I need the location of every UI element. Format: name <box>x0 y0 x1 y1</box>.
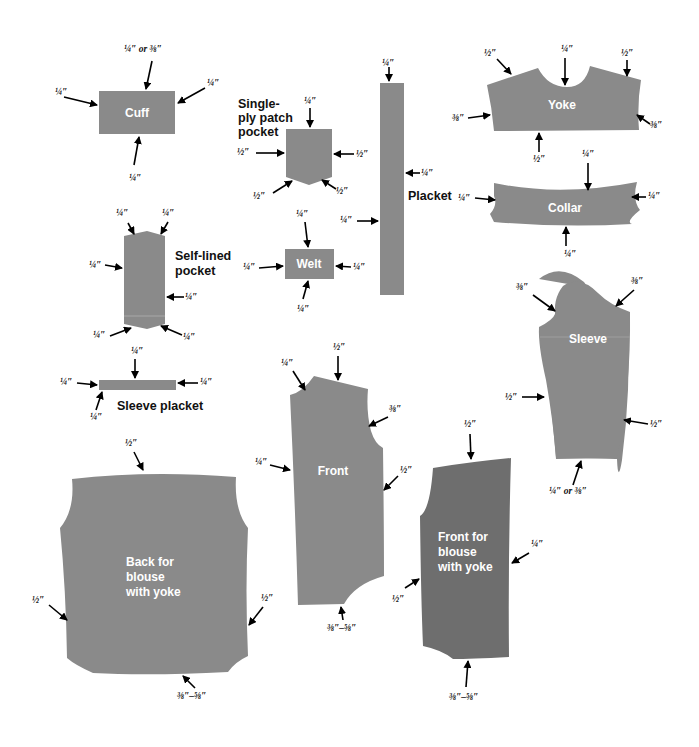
back-yoke-left-allowance: ½″ <box>32 595 44 605</box>
patch-pocket-title-2: ply patch <box>238 111 293 125</box>
collar-bottom-allowance: ¼″ <box>564 249 576 259</box>
self-lined-pocket-bottom-left-allowance: ¼″ <box>93 330 105 340</box>
front-label: Front <box>318 464 349 478</box>
sleeve-left-allowance: ½″ <box>505 392 517 402</box>
patch-pocket-title-3: pocket <box>238 125 279 139</box>
cuff-right-allowance: ¼″ <box>207 78 219 88</box>
yoke-left-allowance: ⅜″ <box>452 113 464 123</box>
welt-top-allowance: ¼″ <box>296 209 308 219</box>
sleeve-label: Sleeve <box>569 332 607 346</box>
arrow <box>405 579 419 588</box>
collar-right-allowance: ¼″ <box>648 191 660 201</box>
yoke-top-left-allowance: ½″ <box>484 48 496 58</box>
arrow <box>637 115 650 124</box>
patch-pocket-right-allowance: ½″ <box>356 149 368 159</box>
arrow <box>110 328 131 336</box>
placket-label: Placket <box>408 189 453 203</box>
sleeve-placket-piece: Sleeve placket ¼″ ¼″ ¼″ ¼″ <box>60 346 212 422</box>
arrow <box>305 222 308 247</box>
self-lined-pocket-top-left-allowance: ¼″ <box>116 208 128 218</box>
arrow <box>134 452 143 470</box>
arrow <box>77 383 97 385</box>
arrow <box>128 223 134 234</box>
arrow <box>573 461 581 485</box>
arrow <box>475 198 495 200</box>
front-yoke-piece: Front for blouse with yoke ½″ ¼″ ½″ ⅜″–⅝… <box>392 419 543 702</box>
front-top-allowance: ½″ <box>333 342 345 352</box>
self-lined-pocket-title-1: Self-lined <box>175 249 231 263</box>
arrow <box>259 266 283 268</box>
patch-pocket-bottom-right-allowance: ½″ <box>336 186 348 196</box>
front-yoke-label-3: with yoke <box>437 560 493 574</box>
arrow <box>470 434 471 459</box>
placket-shape <box>380 83 404 295</box>
arrow <box>466 661 468 687</box>
seam-allowance-diagram: Cuff ¼″ or ⅜″ ¼″ ¼″ ¼″ Single- ply patch… <box>0 0 699 747</box>
patch-pocket-piece: Single- ply patch pocket ¼″ ½″ ½″ ½″ ½″ <box>237 96 368 201</box>
arrow <box>303 281 308 299</box>
yoke-right-allowance: ⅜″ <box>650 120 662 130</box>
sleeve-placket-top-allowance: ¼″ <box>131 346 143 356</box>
self-lined-pocket-shape <box>124 231 165 329</box>
back-yoke-label-1: Back for <box>126 555 174 569</box>
back-yoke-top-allowance: ½″ <box>125 438 137 448</box>
sleeve-top-left-allowance: ⅜″ <box>516 282 528 292</box>
arrow <box>341 607 343 620</box>
collar-piece: Collar ¼″ ¼″ ¼″ ¼″ <box>458 149 660 259</box>
placket-top-allowance: ¼″ <box>382 58 394 68</box>
self-lined-pocket-left-allowance: ¼″ <box>89 260 101 270</box>
front-yoke-top-allowance: ½″ <box>464 419 476 429</box>
cuff-label: Cuff <box>125 106 150 120</box>
front-shape <box>290 376 384 605</box>
patch-pocket-bottom-left-allowance: ½″ <box>253 191 265 201</box>
welt-label: Welt <box>296 257 321 271</box>
sleeve-piece: Sleeve ⅜″ ⅜″ ½″ ½″ ¼″ or ⅜″ <box>505 271 662 496</box>
front-yoke-label-1: Front for <box>438 530 488 544</box>
yoke-label: Yoke <box>548 98 576 112</box>
arrow <box>270 465 290 470</box>
sleeve-right-allowance: ½″ <box>650 419 662 429</box>
back-yoke-label-2: blouse <box>126 570 165 584</box>
back-yoke-right-allowance: ½″ <box>261 593 273 603</box>
arrow <box>468 115 490 118</box>
patch-pocket-shape <box>286 129 332 185</box>
sleeve-bottom-allowance: ¼″ or ⅜″ <box>549 486 587 496</box>
sleeve-placket-shape <box>99 380 176 390</box>
arrow <box>624 420 648 424</box>
welt-bottom-allowance: ¼″ <box>297 304 309 314</box>
arrow <box>161 222 168 234</box>
placket-right-allowance: ¼″ <box>421 168 433 178</box>
collar-label: Collar <box>548 201 582 215</box>
patch-pocket-left-allowance: ½″ <box>237 147 249 157</box>
cuff-left-allowance: ¼″ <box>55 87 67 97</box>
arrow <box>497 59 511 74</box>
yoke-top-right-allowance: ½″ <box>621 48 633 58</box>
arrow <box>134 137 139 165</box>
arrow <box>533 295 555 311</box>
cuff-bottom-allowance: ¼″ <box>129 173 141 183</box>
back-yoke-bottom-allowance: ⅜″–⅝″ <box>177 691 207 701</box>
arrow <box>146 61 152 89</box>
arrow <box>369 417 388 426</box>
front-bottom-allowance: ⅜″–⅝″ <box>327 623 357 633</box>
arrow <box>293 371 305 390</box>
self-lined-pocket-top-right-allowance: ¼″ <box>162 208 174 218</box>
sleeve-placket-right-allowance: ¼″ <box>200 377 212 387</box>
front-right-allowance: ½″ <box>400 465 412 475</box>
arrow <box>105 265 122 268</box>
sleeve-placket-bottom-allowance: ¼″ <box>90 412 102 422</box>
self-lined-pocket-right-allowance: ¼″ <box>185 292 197 302</box>
arrow <box>336 266 351 267</box>
front-left-allowance: ¼″ <box>255 457 267 467</box>
yoke-bottom-allowance: ½″ <box>533 154 545 164</box>
sleeve-top-right-allowance: ⅜″ <box>631 276 643 286</box>
back-yoke-piece: Back for blouse with yoke ½″ ½″ ½″ ⅜″–⅝″ <box>32 438 273 701</box>
self-lined-pocket-bottom-right-allowance: ¼″ <box>183 332 195 342</box>
placket-piece: Placket ¼″ ¼″ ¼″ <box>340 58 453 295</box>
arrow <box>249 607 263 625</box>
arrow <box>178 88 205 103</box>
front-yoke-label-2: blouse <box>438 545 477 559</box>
welt-right-allowance: ¼″ <box>353 262 365 272</box>
arrow <box>273 181 292 193</box>
front-yoke-bottom-allowance: ⅜″–⅝″ <box>449 692 479 702</box>
